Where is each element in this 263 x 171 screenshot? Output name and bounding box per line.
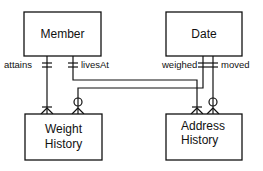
entity-member: Member — [24, 12, 101, 56]
entity-label-address-history-line1: Address — [181, 119, 225, 133]
relationship-label-attains: attains — [4, 59, 32, 70]
relationship-label-moved: moved — [221, 59, 250, 70]
entity-weight-history: Weight History — [25, 114, 102, 160]
entity-label-weight-history-line1: Weight — [45, 122, 83, 136]
relationship-label-livesat: livesAt — [81, 59, 109, 70]
entity-label-date: Date — [191, 27, 217, 41]
entity-date: Date — [166, 12, 242, 56]
relationship-label-weighed: weighed — [161, 59, 197, 70]
er-diagram: attains livesAt weighed moved Member Dat… — [0, 0, 263, 171]
entity-label-weight-history-line2: History — [45, 137, 82, 151]
entity-label-member: Member — [40, 27, 84, 41]
relationship-moved: moved — [207, 56, 250, 114]
relationship-attains: attains — [4, 56, 53, 114]
entity-address-history: Address History — [166, 114, 242, 160]
entity-label-address-history-line2: History — [181, 133, 218, 147]
